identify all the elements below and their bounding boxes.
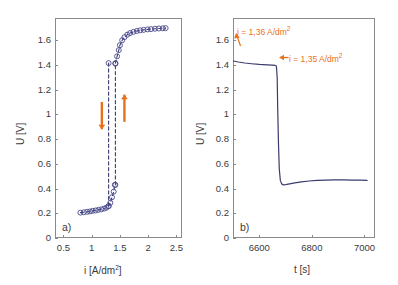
panel-b-y-tick-label: 0.8 — [201, 134, 229, 144]
panel-b-y-tick-label: 0.4 — [201, 184, 229, 194]
panel-b-tag: b) — [240, 221, 249, 233]
panel-a-y-tickmark — [55, 213, 58, 214]
panel-b-y-tick-label: 1.2 — [201, 85, 229, 95]
panel-b-y-tick-label: 1 — [201, 110, 229, 120]
panel-b-y-tickmark — [233, 65, 236, 66]
panel-a-y-tickmark — [55, 90, 58, 91]
annotation-lower-current: i = 1,35 A/dm2 — [289, 53, 342, 63]
panel-b-x-axis-title: t [s] — [294, 265, 310, 275]
panel-b-x-tick-label: 6800 — [301, 243, 322, 253]
panel-a-y-tick-label: 1.2 — [23, 85, 51, 95]
panel-b-y-tickmark — [233, 139, 236, 140]
panel-a-x-tickmark — [148, 235, 149, 238]
panel-a-x-tick-label: 2 — [145, 243, 150, 253]
panel-a-y-tickmark — [55, 238, 58, 239]
panel-b-y-tickmark — [233, 40, 236, 41]
panel-b-y-tickmark — [233, 189, 236, 190]
panel-b-x-tickmark — [312, 235, 313, 238]
panel-b-y-tickmark — [233, 238, 236, 239]
panel-a-y-tick-label: 0 — [23, 233, 51, 243]
panel-a-y-tick-label: 1.6 — [23, 35, 51, 45]
panel-a-x-tickmark — [92, 235, 93, 238]
panel-a-y-tickmark — [55, 65, 58, 66]
annotation-upper-current-text: i = 1,36 A/dm — [237, 27, 287, 37]
panel-b-series-line — [234, 61, 368, 185]
panel-a-y-tickmark — [55, 164, 58, 165]
panel-b-y-tick-label: 1.6 — [201, 35, 229, 45]
panel-a-y-tickmark — [55, 114, 58, 115]
panel-a-y-tickmark — [55, 139, 58, 140]
panel-b-y-tick-label: 0 — [201, 233, 229, 243]
panel-a-x-tick-label: 1.5 — [113, 243, 126, 253]
panel-a-x-tickmark — [63, 235, 64, 238]
panel-a-x-tick-label: 2.5 — [170, 243, 183, 253]
annotation-lower-current-superscript: 2 — [339, 52, 343, 59]
panel-a-y-tick-label: 0.2 — [23, 209, 51, 219]
panel-b-x-tickmark — [259, 235, 260, 238]
panel-a-y-tick-label: 1 — [23, 110, 51, 120]
panel-a-y-tick-label: 0.8 — [23, 134, 51, 144]
figure-root: U [V] i [A/dm2] a) U [V] t [s] b) i = 1,… — [0, 0, 398, 285]
panel-b-x-tick-label: 6600 — [249, 243, 270, 253]
annotation-lower-current-text: i = 1,35 A/dm — [289, 54, 339, 64]
panel-a-x-tickmark — [176, 235, 177, 238]
panel-a-y-tickmark — [55, 189, 58, 190]
panel-b-annotation-left-arrowhead — [279, 55, 284, 60]
panel-a-y-tick-label: 0.6 — [23, 159, 51, 169]
panel-a-y-tick-label: 0.4 — [23, 184, 51, 194]
panel-b-y-tickmark — [233, 114, 236, 115]
panel-b-y-tickmark — [233, 213, 236, 214]
panel-b-x-tick-label: 7000 — [354, 243, 375, 253]
annotation-upper-current-superscript: 2 — [287, 25, 291, 32]
panel-b-y-tick-label: 0.2 — [201, 209, 229, 219]
panel-a-x-tickmark — [120, 235, 121, 238]
panel-b-y-tickmark — [233, 164, 236, 165]
panel-b-x-tickmark — [364, 235, 365, 238]
panel-b-y-tick-label: 0.6 — [201, 159, 229, 169]
panel-a-y-tick-label: 1.4 — [23, 60, 51, 70]
panel-b-y-tickmark — [233, 90, 236, 91]
panel-a-y-tickmark — [55, 40, 58, 41]
panel-a-x-tick-label: 1 — [89, 243, 94, 253]
annotation-upper-current: i = 1,36 A/dm2 — [237, 26, 290, 36]
panel-a-x-tick-label: 0.5 — [57, 243, 70, 253]
panel-b-y-tick-label: 1.4 — [201, 60, 229, 70]
